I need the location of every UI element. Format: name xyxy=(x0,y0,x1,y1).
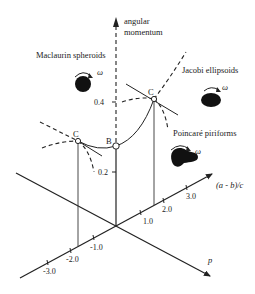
maclaurin-omega: ω xyxy=(97,67,103,77)
b-point xyxy=(113,143,119,149)
tick-0.4: 0.4 xyxy=(94,98,104,107)
left-c-label: C xyxy=(73,129,79,139)
poincare-piriform-icon xyxy=(171,146,198,167)
ab-axis-label: (a - b)/c xyxy=(216,180,244,190)
tick-neg-3.0: -3.0 xyxy=(43,267,56,276)
maclaurin-curve-segment xyxy=(116,99,154,146)
right-c-point xyxy=(151,96,156,101)
tick-0.2: 0.2 xyxy=(98,168,108,177)
angular-momentum-axis xyxy=(112,17,119,226)
tick-1.0: 1.0 xyxy=(143,217,153,226)
jacobi-dashed-left xyxy=(42,141,78,148)
piriform-dashed-right xyxy=(154,99,168,130)
jacobi-ellipsoid-icon xyxy=(201,87,221,107)
right-c-label: C xyxy=(148,87,154,97)
tick-3.0: 3.0 xyxy=(186,192,196,201)
p-axis-label: p xyxy=(207,255,212,265)
maclaurin-spheroid-icon xyxy=(75,73,93,92)
jacobi-dashed-right xyxy=(154,52,186,99)
left-c-tangent xyxy=(78,141,102,156)
poincare-label: Poincaré piriforms xyxy=(173,128,237,138)
p-axis xyxy=(16,173,210,276)
maclaurin-dashed-right xyxy=(122,98,154,102)
arrow-up-icon xyxy=(113,17,119,27)
vertical-axis-label-line2: momentum xyxy=(124,27,163,37)
vertical-axis-label-line1: angular xyxy=(124,16,150,26)
poincare-omega: ω xyxy=(195,146,201,156)
left-c-point xyxy=(75,138,80,143)
equilibrium-figures-diagram: angular momentum 0.4 0.2 1.0 2.0 3.0 -1.… xyxy=(0,0,255,294)
b-label: B xyxy=(106,136,112,146)
tick-neg-2.0: -2.0 xyxy=(66,255,79,264)
maclaurin-label: Maclaurin spheroids xyxy=(36,50,106,60)
tick-neg-1.0: -1.0 xyxy=(90,243,103,252)
jacobi-omega: ω xyxy=(222,82,228,92)
tick-2.0: 2.0 xyxy=(162,205,172,214)
jacobi-label: Jacobi ellipsoids xyxy=(182,65,238,75)
